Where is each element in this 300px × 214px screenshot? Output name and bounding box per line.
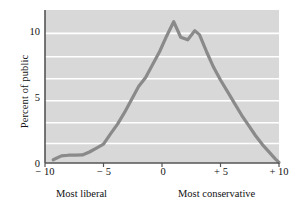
- chart-canvas: [0, 0, 300, 214]
- ideology-distribution-chart: Percent of public 10 5 0 − 10 − 5 0 + 5 …: [0, 0, 300, 214]
